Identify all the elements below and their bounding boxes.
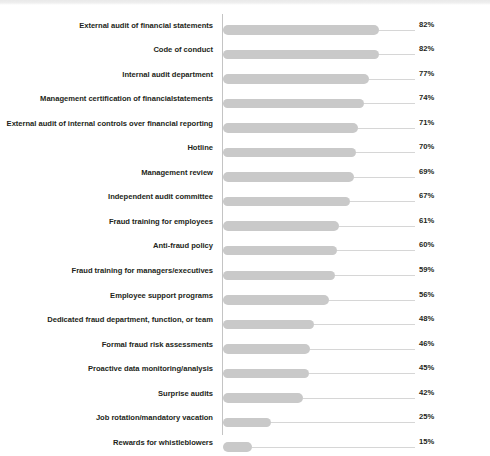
category-label: Independent audit committee: [0, 192, 213, 202]
bar: [223, 271, 335, 281]
value-label: 82%: [419, 44, 434, 54]
leader-line: [354, 177, 415, 178]
bar: [223, 50, 379, 60]
value-label: 77%: [419, 69, 434, 79]
leader-line: [314, 324, 415, 325]
category-label: External audit of financial statements: [0, 21, 213, 31]
value-label: 48%: [419, 314, 434, 324]
leader-line: [364, 103, 415, 104]
leader-line: [337, 250, 415, 251]
value-label: 67%: [419, 191, 434, 201]
chart-row: Formal fraud risk assessments46%: [0, 339, 490, 364]
bar: [223, 172, 354, 182]
value-label: 59%: [419, 265, 434, 275]
category-label: Formal fraud risk assessments: [0, 340, 213, 350]
leader-line: [379, 30, 415, 31]
chart-row: Employee support programs56%: [0, 290, 490, 315]
bar: [223, 197, 350, 207]
chart-row: Hotline70%: [0, 142, 490, 167]
bar: [223, 25, 379, 35]
bar: [223, 369, 309, 379]
leader-line: [358, 128, 415, 129]
value-label: 71%: [419, 118, 434, 128]
leader-line: [379, 54, 415, 55]
category-label: Anti-fraud policy: [0, 241, 213, 251]
category-label: Fraud training for managers/executives: [0, 266, 213, 276]
value-label: 61%: [419, 216, 434, 226]
value-label: 42%: [419, 388, 434, 398]
chart-row: External audit of financial statements82…: [0, 20, 490, 45]
chart-row: Independent audit committee67%: [0, 191, 490, 216]
category-label: Job rotation/mandatory vacation: [0, 413, 213, 423]
bar: [223, 74, 369, 84]
value-label: 46%: [419, 339, 434, 349]
value-label: 15%: [419, 437, 434, 447]
leader-line: [309, 373, 416, 374]
category-label: Surprise audits: [0, 389, 213, 399]
category-label: Employee support programs: [0, 291, 213, 301]
bar: [223, 99, 364, 109]
chart-row: External audit of internal controls over…: [0, 118, 490, 143]
leader-line: [310, 349, 415, 350]
leader-line: [350, 201, 415, 202]
chart-row: Management review69%: [0, 167, 490, 192]
chart-row: Surprise audits42%: [0, 388, 490, 413]
bar: [223, 418, 271, 428]
bar: [223, 393, 303, 403]
chart-row: Proactive data monitoring/analysis45%: [0, 363, 490, 388]
bar: [223, 148, 356, 158]
value-label: 82%: [419, 20, 434, 30]
leader-line: [369, 79, 415, 80]
bar: [223, 221, 339, 231]
leader-line: [339, 226, 415, 227]
chart-row: Dedicated fraud department, function, or…: [0, 314, 490, 339]
leader-line: [271, 422, 416, 423]
bar: [223, 123, 358, 133]
chart-row: Management certification of financialsta…: [0, 93, 490, 118]
value-label: 25%: [419, 412, 434, 422]
value-label: 45%: [419, 363, 434, 373]
leader-line: [356, 152, 415, 153]
leader-line: [329, 300, 415, 301]
category-label: Management review: [0, 168, 213, 178]
category-label: Management certification of financialsta…: [0, 94, 213, 104]
category-label: Dedicated fraud department, function, or…: [0, 315, 213, 325]
leader-line: [303, 398, 415, 399]
category-label: Fraud training for employees: [0, 217, 213, 227]
category-label: Rewards for whistleblowers: [0, 438, 213, 448]
category-label: External audit of internal controls over…: [0, 119, 213, 129]
value-label: 60%: [419, 240, 434, 250]
category-label: Hotline: [0, 143, 213, 153]
leader-line: [335, 275, 415, 276]
value-label: 69%: [419, 167, 434, 177]
category-label: Code of conduct: [0, 45, 213, 55]
bar: [223, 246, 337, 256]
chart-row: Fraud training for employees61%: [0, 216, 490, 241]
bar: [223, 344, 310, 354]
value-label: 70%: [419, 142, 434, 152]
chart-row: Code of conduct82%: [0, 44, 490, 69]
chart-row: Internal audit department77%: [0, 69, 490, 94]
bar: [223, 442, 252, 452]
chart-row: Fraud training for managers/executives59…: [0, 265, 490, 290]
category-label: Internal audit department: [0, 70, 213, 80]
value-label: 74%: [419, 93, 434, 103]
value-label: 56%: [419, 290, 434, 300]
chart-row: Rewards for whistleblowers15%: [0, 437, 490, 456]
bar: [223, 295, 329, 305]
leader-line: [252, 447, 416, 448]
chart-row: Anti-fraud policy60%: [0, 240, 490, 265]
category-label: Proactive data monitoring/analysis: [0, 364, 213, 374]
chart-row: Job rotation/mandatory vacation25%: [0, 412, 490, 437]
bar: [223, 320, 314, 330]
